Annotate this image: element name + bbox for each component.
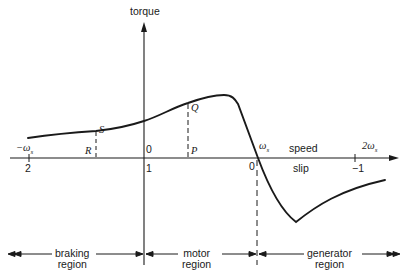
slip-tick-0: 0: [249, 161, 255, 172]
speed-axis-label: speed: [289, 143, 318, 154]
torque-speed-diagram: [0, 0, 408, 272]
slip-tick-2: 2: [25, 163, 31, 174]
point-Q-label: Q: [191, 103, 199, 114]
slip-tick-1: 1: [146, 163, 152, 174]
slip-tick-neg1: −1: [352, 163, 364, 174]
motor-region-label: motor region: [180, 248, 213, 270]
speed-tick-ws: ωs: [259, 140, 269, 154]
slip-axis-label: slip: [293, 163, 309, 174]
speed-axis-arrow-icon: [389, 155, 399, 161]
point-S-label: S: [99, 125, 104, 136]
point-R-label: R: [85, 146, 91, 157]
braking-region-label: braking region: [53, 248, 91, 270]
point-P-label: P: [191, 146, 197, 157]
torque-axis-label: torque: [130, 6, 160, 17]
generator-region-label: generator region: [305, 248, 354, 270]
speed-tick-zero: 0: [146, 144, 152, 155]
torque-axis-arrow-icon: [141, 22, 147, 32]
speed-tick-neg-ws: −ωs: [16, 142, 33, 156]
speed-axis: [10, 155, 399, 161]
speed-tick-two-ws: 2ωs: [362, 140, 377, 154]
